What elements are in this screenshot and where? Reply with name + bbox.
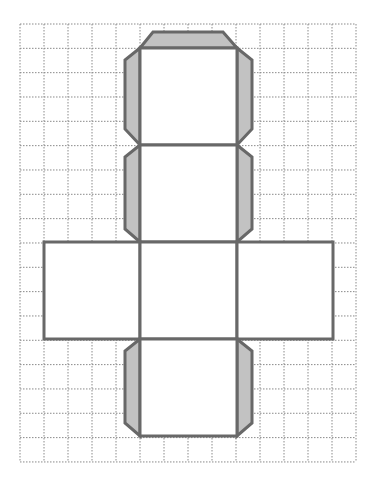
- cube-faces: [44, 48, 333, 436]
- upper-face: [140, 145, 237, 242]
- bottom-right-flap: [237, 339, 252, 436]
- top-face: [140, 48, 237, 145]
- cube-net-diagram: [0, 0, 382, 487]
- center-face: [140, 242, 237, 339]
- upper-right-flap: [237, 145, 252, 242]
- left-face: [44, 242, 140, 339]
- right-face: [237, 242, 333, 339]
- bottom-left-flap: [125, 339, 140, 436]
- upper-left-flap: [125, 145, 140, 242]
- top-left-flap: [125, 48, 140, 145]
- bottom-face: [140, 339, 237, 436]
- top-right-flap: [237, 48, 252, 145]
- top-flap: [140, 32, 237, 48]
